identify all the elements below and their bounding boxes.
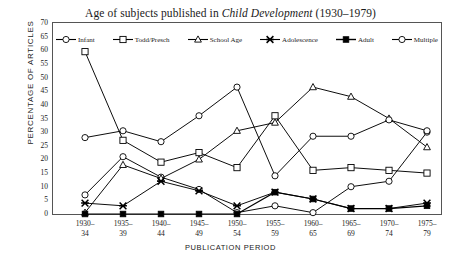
marker-open-square	[386, 167, 392, 173]
marker-open-circle	[82, 192, 88, 198]
marker-open-triangle	[196, 156, 203, 162]
chart-legend: InfantTodd/PreschSchool AgeAdolescenceAd…	[56, 33, 438, 46]
series-line	[85, 52, 427, 173]
marker-open-square	[272, 113, 278, 119]
series-line	[85, 132, 427, 213]
series-line	[85, 192, 427, 214]
legend-key-open-triangle-icon	[188, 35, 208, 44]
marker-open-square	[82, 49, 88, 55]
marker-open-circle	[272, 173, 278, 179]
legend-label: Adolescence	[282, 36, 318, 44]
marker-open-square	[234, 165, 240, 171]
marker-open-triangle	[310, 84, 317, 90]
marker-open-square	[424, 170, 430, 176]
marker-filled-square	[82, 211, 88, 217]
marker-open-square	[120, 36, 126, 42]
marker-open-circle	[399, 36, 405, 42]
series-multiple	[82, 84, 430, 179]
marker-filled-square	[424, 203, 430, 209]
marker-open-circle	[310, 133, 316, 139]
legend-item-adolescence[interactable]: Adolescence	[260, 35, 318, 44]
marker-filled-square	[234, 211, 240, 217]
marker-cross-star	[266, 36, 274, 43]
legend-item-infant[interactable]: Infant	[56, 35, 95, 44]
marker-open-triangle	[120, 161, 127, 167]
series-adult	[82, 189, 430, 216]
marker-open-circle	[234, 84, 240, 90]
marker-filled-square	[196, 211, 202, 217]
legend-key-cross-star-icon	[260, 35, 280, 44]
marker-filled-square	[272, 189, 278, 195]
marker-open-square	[196, 150, 202, 156]
legend-label: Adult	[358, 36, 374, 44]
legend-key-open-circle-icon	[56, 35, 76, 44]
legend-key-filled-square-icon	[336, 35, 356, 44]
marker-open-square	[348, 165, 354, 171]
legend-item-school-age[interactable]: School Age	[188, 35, 242, 44]
marker-filled-square	[348, 206, 354, 212]
legend-key-open-square-icon	[113, 35, 133, 44]
marker-filled-square	[120, 211, 126, 217]
marker-open-circle	[158, 139, 164, 145]
legend-label: School Age	[210, 36, 242, 44]
marker-filled-square	[310, 196, 316, 202]
marker-open-circle	[424, 128, 430, 134]
marker-filled-square	[386, 206, 392, 212]
series-line	[85, 87, 427, 176]
series-line	[85, 181, 427, 208]
marker-open-circle	[386, 117, 392, 123]
marker-open-circle	[272, 203, 278, 209]
marker-open-square	[120, 137, 126, 143]
legend-item-multiple[interactable]: Multiple	[392, 35, 438, 44]
marker-cross-star	[119, 202, 127, 209]
legend-key-open-circle-icon	[392, 35, 412, 44]
marker-open-circle	[196, 113, 202, 119]
legend-label: Multiple	[414, 36, 438, 44]
series-school-age	[82, 84, 431, 216]
marker-filled-square	[343, 37, 349, 43]
legend-label: Infant	[78, 36, 95, 44]
marker-open-circle	[120, 128, 126, 134]
legend-label: Todd/Presch	[135, 36, 170, 44]
series-line	[85, 87, 427, 213]
marker-open-circle	[310, 210, 316, 216]
marker-open-circle	[63, 36, 69, 42]
marker-filled-square	[158, 211, 164, 217]
marker-open-square	[158, 159, 164, 165]
marker-cross-star	[233, 202, 241, 209]
marker-open-circle	[348, 133, 354, 139]
marker-open-circle	[120, 154, 126, 160]
chart-figure: Age of subjects published in Child Devel…	[0, 0, 461, 259]
marker-open-circle	[348, 184, 354, 190]
legend-item-adult[interactable]: Adult	[336, 35, 374, 44]
legend-item-todd-presch[interactable]: Todd/Presch	[113, 35, 170, 44]
marker-open-square	[310, 167, 316, 173]
marker-open-triangle	[424, 144, 431, 150]
marker-open-circle	[386, 178, 392, 184]
marker-open-circle	[82, 135, 88, 141]
marker-cross-star	[81, 200, 89, 207]
